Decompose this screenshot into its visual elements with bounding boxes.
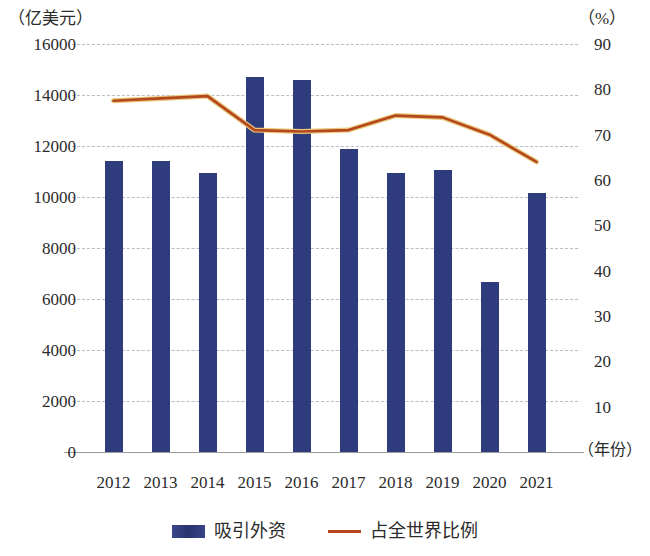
- bar: [246, 77, 264, 452]
- right-axis-unit-label: （%）: [578, 4, 626, 29]
- left-axis-tick-label: 8000: [2, 240, 76, 257]
- bar: [340, 149, 358, 452]
- gridline: [72, 350, 578, 351]
- legend-item-bar[interactable]: 吸引外资: [172, 522, 286, 540]
- bar: [152, 161, 170, 452]
- gridline: [72, 401, 578, 402]
- chart-legend: 吸引外资 占全世界比例: [0, 522, 650, 540]
- plot-area: [90, 44, 560, 452]
- left-axis-unit-label: （亿美元）: [8, 4, 93, 29]
- gridline: [72, 248, 578, 249]
- right-axis-tick-label: 10: [594, 399, 634, 416]
- right-axis-tick-label: 40: [594, 263, 634, 280]
- legend-item-line[interactable]: 占全世界比例: [328, 522, 478, 540]
- left-axis-tick-label: 4000: [2, 342, 76, 359]
- bar: [105, 161, 123, 452]
- left-axis-tick-label: 6000: [2, 291, 76, 308]
- right-axis-tick-label: 20: [594, 353, 634, 370]
- gridline: [72, 95, 578, 96]
- bar: [481, 282, 499, 452]
- legend-label-bar: 吸引外资: [214, 522, 286, 540]
- left-axis-tick-label: 2000: [2, 393, 76, 410]
- gridline: [72, 299, 578, 300]
- left-axis-tick-label: 12000: [2, 138, 76, 155]
- right-axis-tick-label: 70: [594, 127, 634, 144]
- chart-container: （亿美元） （%） （年份） 0200040006000800010000120…: [0, 0, 650, 556]
- left-axis-tick-label: 0: [2, 444, 76, 461]
- line-swatch-icon: [328, 530, 361, 533]
- gridline: [72, 146, 578, 147]
- bar: [387, 173, 405, 452]
- left-axis-tick-label: 10000: [2, 189, 76, 206]
- bar: [293, 80, 311, 452]
- bar: [434, 170, 452, 452]
- bar-swatch-icon: [172, 525, 205, 538]
- x-axis-unit-label: （年份）: [578, 436, 642, 460]
- gridline: [72, 44, 578, 45]
- legend-label-line: 占全世界比例: [370, 522, 478, 540]
- gridline: [72, 197, 578, 198]
- right-axis-tick-label: 60: [594, 172, 634, 189]
- x-axis-tick-label: 2021: [509, 474, 565, 491]
- bar: [528, 193, 546, 452]
- bar: [199, 173, 217, 452]
- right-axis-tick-label: 90: [594, 36, 634, 53]
- left-axis-tick-label: 14000: [2, 87, 76, 104]
- left-axis-tick-label: 16000: [2, 36, 76, 53]
- right-axis-tick-label: 30: [594, 308, 634, 325]
- right-axis-tick-label: 80: [594, 81, 634, 98]
- right-axis-tick-label: 50: [594, 217, 634, 234]
